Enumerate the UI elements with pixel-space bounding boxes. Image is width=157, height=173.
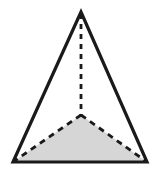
figure-container bbox=[0, 0, 157, 173]
geometry-diagram bbox=[0, 0, 157, 173]
